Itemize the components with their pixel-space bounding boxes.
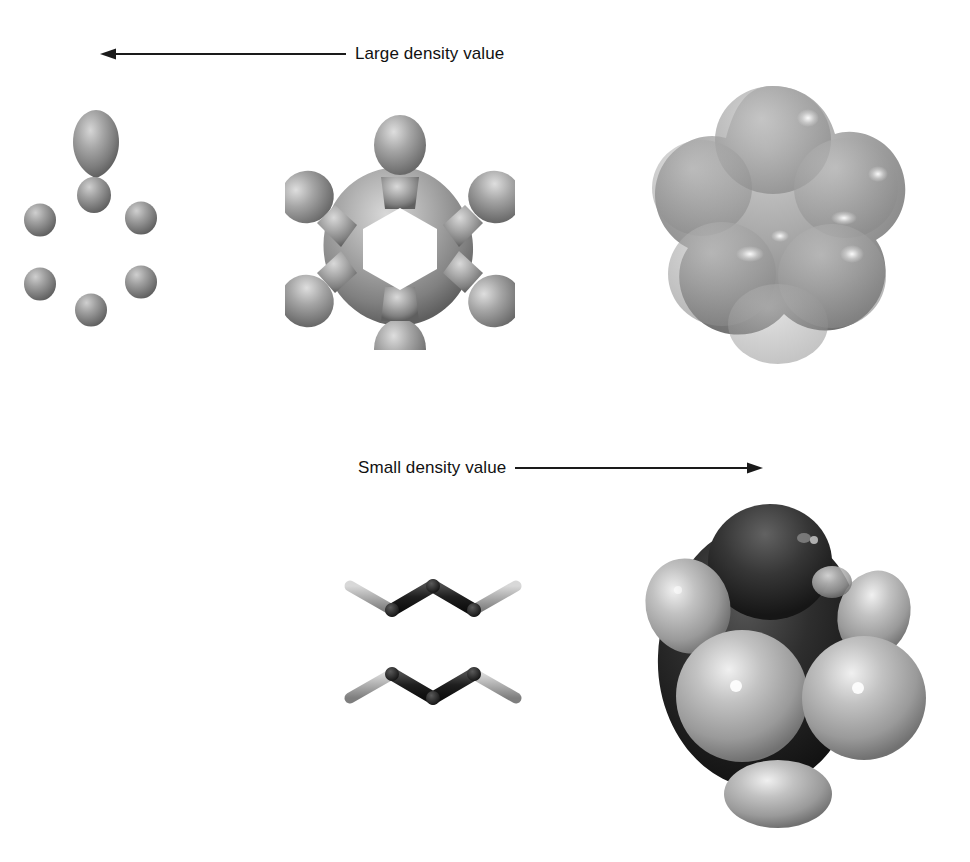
panel-benzene-stick-model (338, 528, 570, 760)
hydrogen-bonds (350, 538, 516, 746)
panel-benzene-space-filling-model (618, 498, 908, 808)
annotation-small-density-label: Small density value (358, 456, 506, 480)
carbon-atoms (385, 579, 481, 705)
left-arrow-icon (100, 45, 348, 63)
annotation-large-density: Large density value (100, 42, 504, 66)
carbon-ring (392, 586, 474, 698)
panel-electron-density-isosurface-low (630, 78, 915, 363)
density-blob-sub (77, 177, 111, 213)
panel-electron-density-isosurface-medium (285, 105, 515, 350)
right-arrow-icon (513, 459, 763, 477)
annotation-small-density: Small density value (358, 456, 763, 480)
panel-electron-density-isosurface-high (18, 98, 208, 318)
density-blob-large (73, 110, 119, 178)
density-blob-ring (24, 202, 157, 327)
figure-canvas: Large density value Small density value (0, 0, 970, 862)
isosurface-envelope (652, 86, 905, 364)
isosurface-star-body (271, 115, 531, 379)
annotation-large-density-label: Large density value (355, 42, 504, 66)
